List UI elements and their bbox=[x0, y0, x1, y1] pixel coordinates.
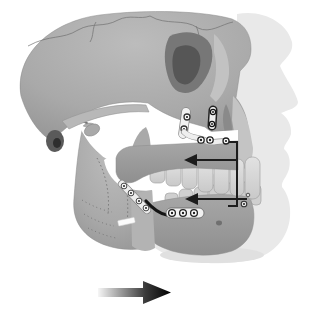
tooth-central-incisor bbox=[245, 157, 260, 199]
chin-screw-small bbox=[246, 193, 250, 197]
screw-dot bbox=[243, 203, 245, 205]
ear-canal-inner bbox=[53, 138, 61, 148]
screw-dot bbox=[193, 212, 195, 214]
screw-dot bbox=[145, 207, 147, 209]
screw-dot bbox=[212, 111, 214, 113]
distal-segment-shape bbox=[151, 195, 254, 256]
screw-dot bbox=[123, 185, 125, 187]
figure-canvas bbox=[0, 0, 314, 310]
screw-dot bbox=[171, 212, 173, 214]
screw-dot bbox=[211, 123, 213, 125]
screw-dot bbox=[209, 139, 211, 141]
screw-dot bbox=[130, 192, 132, 194]
screw-dot bbox=[138, 200, 140, 202]
screw-dot bbox=[225, 140, 227, 142]
screw-dot bbox=[200, 139, 202, 141]
skull-illustration bbox=[0, 0, 314, 310]
screw-dot bbox=[186, 116, 188, 118]
mental-foramen bbox=[216, 221, 222, 226]
screw-dot bbox=[182, 212, 184, 214]
